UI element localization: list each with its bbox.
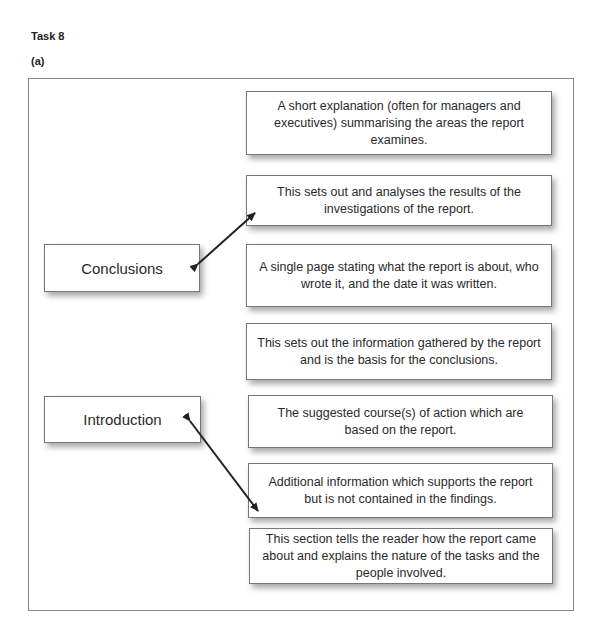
arrow-introduction[interactable] — [190, 421, 258, 511]
arrow-conclusions[interactable] — [198, 213, 255, 264]
connector-arrows — [0, 0, 600, 640]
